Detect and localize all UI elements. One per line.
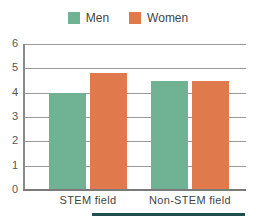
x-tick-label: Non-STEM field (140, 194, 240, 206)
x-tick-label: STEM field (38, 194, 138, 206)
y-tick-label: 6 (10, 37, 20, 49)
bar-women-non-stem (192, 81, 229, 191)
x-axis (23, 189, 246, 191)
gridline (24, 68, 246, 69)
y-tick-label: 0 (10, 183, 20, 195)
footer-accent-strip (92, 213, 245, 216)
y-tick-label: 5 (10, 61, 20, 73)
bar-women-stem (90, 73, 127, 190)
gridline (24, 44, 246, 45)
bar-men-stem (49, 93, 86, 190)
y-tick-label: 1 (10, 159, 20, 171)
bar-chart: 0123456STEM fieldNon-STEM field (0, 0, 256, 216)
y-tick-label: 2 (10, 134, 20, 146)
bar-men-non-stem (151, 81, 188, 191)
y-tick-label: 4 (10, 86, 20, 98)
y-axis (23, 44, 25, 191)
y-tick-label: 3 (10, 110, 20, 122)
